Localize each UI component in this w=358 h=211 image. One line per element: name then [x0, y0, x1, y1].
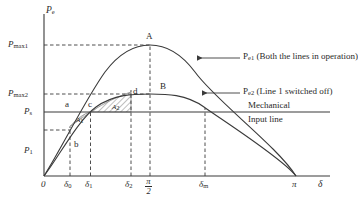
- point-label-a-lower: a: [65, 100, 69, 109]
- x-tick-deltam: δm: [199, 180, 208, 190]
- y-tick-pmax2: Pmax2: [8, 89, 28, 99]
- legend-pe2: Pe2 (Line 1 switched off): [243, 87, 332, 97]
- x-tick-halfpi: π 2: [145, 178, 152, 196]
- y-tick-pmax1: Pmax1: [8, 40, 28, 50]
- pe1-curve: [44, 45, 296, 176]
- x-tick-delta0: δ0: [64, 180, 71, 190]
- mechanical-input-label-line1: Mechanical: [248, 101, 290, 110]
- area-label-a1: A1: [76, 117, 84, 125]
- y-tick-ps: Ps: [24, 107, 32, 117]
- point-label-a-upper: A: [146, 32, 153, 41]
- x-tick-pi: π: [292, 180, 297, 189]
- point-label-d: d: [133, 87, 138, 96]
- y-tick-p1: P1: [24, 146, 33, 156]
- legend-pe1: Pe1 (Both the lines in operation): [243, 52, 358, 62]
- point-label-b-lower: b: [74, 140, 79, 149]
- x-axis-label: δ: [318, 180, 322, 190]
- x-tick-zero: 0: [41, 180, 46, 189]
- point-label-b-upper: B: [160, 82, 166, 91]
- point-label-c: c: [88, 100, 92, 109]
- mechanical-input-label-line2: Input line: [248, 115, 283, 124]
- y-axis-label: Pe: [46, 6, 55, 16]
- area-label-a2: A2: [112, 104, 120, 112]
- x-tick-delta1: δ1: [85, 180, 92, 190]
- x-tick-delta2: δ2: [125, 180, 132, 190]
